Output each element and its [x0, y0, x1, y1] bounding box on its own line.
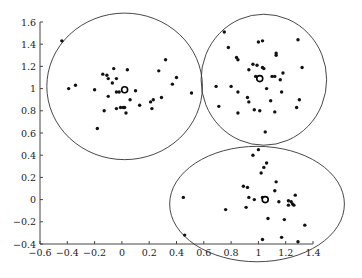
- data-point-marker: [295, 106, 298, 109]
- data-point-marker: [111, 81, 114, 84]
- y-tick-label: −0.4: [13, 239, 36, 250]
- data-point-marker: [251, 62, 254, 65]
- data-point-marker: [138, 104, 141, 107]
- x-tick-label: 1: [255, 247, 261, 258]
- data-point-marker: [190, 91, 193, 94]
- axes: [40, 22, 313, 244]
- data-point-marker: [67, 87, 70, 90]
- data-point-marker: [262, 67, 265, 70]
- y-axis-ticks: −0.4−0.200.20.40.60.811.21.41.6: [13, 17, 43, 250]
- data-point-marker: [274, 54, 277, 57]
- data-point-marker: [296, 38, 299, 41]
- cluster-2: [201, 14, 327, 145]
- data-point-marker: [117, 90, 120, 93]
- data-point-marker: [150, 107, 153, 110]
- data-point-marker: [273, 110, 276, 113]
- data-point-marker: [229, 85, 232, 88]
- data-point-marker: [253, 108, 256, 111]
- data-point-marker: [274, 180, 277, 183]
- data-point-marker: [112, 67, 115, 70]
- data-point-marker: [134, 89, 137, 92]
- data-point-marker: [223, 30, 226, 33]
- data-point-marker: [183, 233, 186, 236]
- data-point-marker: [265, 161, 268, 164]
- data-point-marker: [157, 69, 160, 72]
- data-point-marker: [93, 88, 96, 91]
- x-tick-label: 0.2: [142, 247, 157, 258]
- data-point-marker: [164, 58, 167, 61]
- data-point-marker: [279, 78, 282, 81]
- data-point-marker: [126, 68, 129, 71]
- data-point-marker: [171, 82, 174, 85]
- data-point-marker: [251, 154, 254, 157]
- data-point-marker: [107, 95, 110, 98]
- data-point-marker: [298, 98, 301, 101]
- centroid-marker: [262, 197, 268, 203]
- data-point-marker: [227, 46, 230, 49]
- data-point-marker: [265, 87, 268, 90]
- data-point-marker: [101, 72, 104, 75]
- y-tick-label: 1.2: [21, 61, 36, 72]
- data-point-marker: [292, 203, 295, 206]
- data-point-marker: [123, 106, 126, 109]
- data-point-marker: [152, 98, 155, 101]
- data-point-marker: [236, 90, 239, 93]
- data-point-marker: [294, 193, 297, 196]
- data-point-marker: [280, 90, 283, 93]
- data-point-marker: [246, 186, 249, 189]
- data-point-marker: [261, 39, 264, 42]
- data-point-marker: [280, 236, 283, 239]
- data-point-marker: [60, 39, 63, 42]
- data-point-marker: [105, 74, 108, 77]
- data-point-marker: [224, 208, 227, 211]
- data-point-marker: [242, 185, 245, 188]
- y-tick-label: 0.6: [21, 128, 36, 139]
- data-point-marker: [255, 64, 258, 67]
- data-point-marker: [269, 99, 272, 102]
- x-tick-label: −0.4: [56, 247, 79, 258]
- y-tick-label: 1.4: [21, 39, 36, 50]
- data-point-marker: [214, 85, 217, 88]
- data-point-marker: [253, 198, 256, 201]
- y-tick-label: −0.2: [13, 216, 36, 227]
- x-tick-label: 0.8: [224, 247, 239, 258]
- data-point-marker: [247, 196, 250, 199]
- data-point-marker: [160, 96, 163, 99]
- y-tick-label: 0.2: [21, 172, 36, 183]
- data-point-marker: [102, 109, 105, 112]
- data-point-marker: [296, 240, 299, 243]
- clusters: [47, 13, 345, 262]
- y-tick-label: 0.4: [21, 150, 36, 161]
- cluster-1: [47, 13, 203, 160]
- data-point-marker: [273, 75, 276, 78]
- data-point-marker: [258, 109, 261, 112]
- data-point-marker: [175, 76, 178, 79]
- y-tick-label: 1.6: [21, 17, 36, 28]
- x-tick-label: 1.2: [278, 247, 293, 258]
- data-point-marker: [149, 100, 152, 103]
- centroid-marker: [122, 87, 128, 93]
- data-point-marker: [115, 107, 118, 110]
- data-point-marker: [261, 238, 264, 241]
- x-tick-label: −0.2: [83, 247, 106, 258]
- data-point-marker: [236, 111, 239, 114]
- data-point-marker: [283, 218, 286, 221]
- cluster-boundary-circle: [201, 14, 327, 145]
- data-point-marker: [115, 77, 118, 80]
- data-point-marker: [264, 130, 267, 133]
- data-point-marker: [259, 171, 262, 174]
- y-tick-label: 1: [30, 83, 36, 94]
- data-point-marker: [128, 98, 131, 101]
- data-point-marker: [300, 66, 303, 69]
- data-point-marker: [124, 111, 127, 114]
- data-point-marker: [257, 148, 260, 151]
- data-point-marker: [266, 217, 269, 220]
- data-point-marker: [303, 223, 306, 226]
- x-tick-label: 0.4: [169, 247, 184, 258]
- data-point-marker: [273, 189, 276, 192]
- data-point-marker: [107, 77, 110, 80]
- data-point-marker: [246, 96, 249, 99]
- data-point-marker: [247, 100, 250, 103]
- data-point-marker: [244, 206, 247, 209]
- data-point-marker: [262, 166, 265, 169]
